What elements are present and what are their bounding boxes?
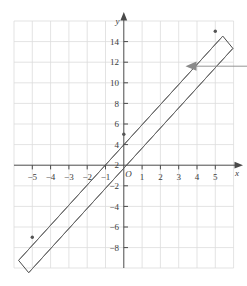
- x-tick-label: −4: [46, 172, 56, 182]
- lower-line: [29, 48, 233, 272]
- y-tick-label: 4: [115, 140, 120, 150]
- y-intercept-dot: [122, 133, 125, 136]
- x-tick-label: 5: [213, 172, 218, 182]
- origin-label: O: [125, 169, 132, 179]
- y-tick-label: −2: [109, 181, 119, 191]
- x-tick-label: −2: [82, 172, 92, 182]
- endpoint-dot-top: [214, 30, 217, 33]
- x-tick-label: 3: [176, 172, 181, 182]
- callout-arrowhead-icon: [186, 62, 197, 71]
- x-tick-labels: −5 −4 −3 −2 −1 1 2 3 4 5: [28, 172, 219, 182]
- x-tick-label: −3: [64, 172, 74, 182]
- y-tick-label: 8: [115, 99, 120, 109]
- x-tick-label: 1: [140, 172, 145, 182]
- y-tick-label: 2: [115, 160, 120, 170]
- y-tick-label: −4: [109, 202, 119, 212]
- y-axis-arrowhead: [120, 12, 127, 21]
- x-tick-label: 2: [158, 172, 163, 182]
- y-tick-label: −6: [109, 222, 119, 232]
- x-tick-label: 4: [195, 172, 200, 182]
- endpoint-dot-bottom: [31, 236, 34, 239]
- plot-canvas: −5 −4 −3 −2 −1 1 2 3 4 5 14 12 10 8 6 4 …: [0, 0, 247, 286]
- x-axis-label: x: [234, 168, 239, 178]
- coordinate-graph-figure: −5 −4 −3 −2 −1 1 2 3 4 5 14 12 10 8 6 4 …: [0, 0, 247, 286]
- y-tick-label: 10: [110, 78, 120, 88]
- y-tick-label: 6: [115, 119, 120, 129]
- y-tick-label: 14: [110, 37, 120, 47]
- y-tick-label: 12: [110, 57, 119, 67]
- y-tick-label: −8: [109, 243, 119, 253]
- x-tick-label: −5: [28, 172, 38, 182]
- y-axis-label: y: [115, 16, 120, 26]
